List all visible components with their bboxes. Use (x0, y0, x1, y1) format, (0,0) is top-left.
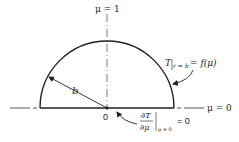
svg-text:T: T (165, 58, 172, 68)
surface-arrow (173, 70, 193, 84)
svg-text:= 0: = 0 (177, 116, 190, 126)
origin-label: 0 (103, 112, 108, 122)
base-arrow (117, 112, 137, 124)
svg-text:μ = 0: μ = 0 (158, 126, 172, 133)
svg-text:r = b: r = b (173, 62, 189, 69)
svg-text:∂μ: ∂μ (140, 123, 149, 132)
hemisphere-diagram: b μ = 1 μ = 0 0 T r = b = f(μ) ∂T ∂μ μ =… (0, 0, 239, 142)
radius-label: b (72, 85, 78, 96)
right-axis-label: μ = 0 (207, 103, 232, 113)
surface-condition-label: T r = b = f(μ) (165, 58, 217, 70)
svg-text:∂T: ∂T (141, 111, 151, 120)
base-condition-label: ∂T ∂μ μ = 0 = 0 (140, 111, 190, 133)
svg-text:= f(μ): = f(μ) (190, 58, 217, 68)
top-axis-label: μ = 1 (95, 4, 120, 14)
